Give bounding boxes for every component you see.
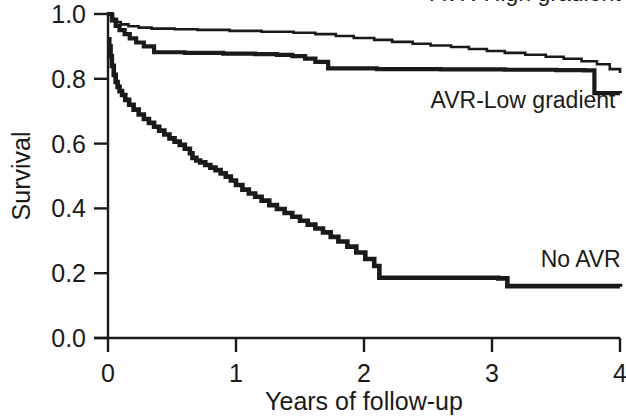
y-tick-label: 1.0 [51,0,86,28]
axes-group [94,12,620,338]
y-tick-label: 0.6 [51,130,86,158]
survival-curve [108,14,620,73]
y-tick-label: 0.0 [51,324,86,352]
chart-canvas: 0.00.20.40.60.81.0 01234 AVR-High gradie… [0,0,626,417]
x-tick-label: 4 [613,359,626,387]
series-label: AVR-Low gradient [431,87,617,113]
y-tick-label: 0.4 [51,194,86,222]
survival-chart: 0.00.20.40.60.81.0 01234 AVR-High gradie… [0,0,626,417]
x-axis-title: Years of follow-up [265,387,463,415]
x-axis-ticks [108,338,620,352]
series-label: No AVR [541,246,621,272]
series-label: AVR-High gradient [431,0,622,6]
y-tick-label: 0.2 [51,259,86,287]
y-axis-ticks [94,14,108,338]
series-annotations-group: AVR-High gradientAVR-Low gradientNo AVR [431,0,622,272]
x-tick-label: 0 [101,359,115,387]
y-axis-tick-labels: 0.00.20.40.60.81.0 [51,0,86,352]
x-tick-label: 1 [229,359,243,387]
x-tick-label: 3 [485,359,499,387]
x-axis-tick-labels: 01234 [101,359,626,387]
y-tick-label: 0.8 [51,65,86,93]
y-axis-title: Survival [7,132,35,221]
x-tick-label: 2 [357,359,371,387]
